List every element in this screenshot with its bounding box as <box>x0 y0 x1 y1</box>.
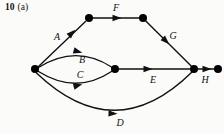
edge-label-c: C <box>77 70 84 80</box>
start-node <box>31 65 39 73</box>
edge-layer <box>37 18 215 110</box>
edge-b <box>39 56 112 68</box>
edge-label-d: D <box>116 118 123 128</box>
end-node <box>214 65 222 73</box>
edge-label-h: H <box>201 75 208 85</box>
top-right-node <box>139 14 147 22</box>
node-layer <box>31 14 222 73</box>
arrowhead-f <box>113 15 122 21</box>
edge-label-b: B <box>79 55 85 65</box>
edge-label-g: G <box>169 31 176 41</box>
arrowhead-h <box>203 66 212 72</box>
edge-label-f: F <box>113 3 119 13</box>
edge-c <box>39 72 112 84</box>
edge-label-a: A <box>54 32 60 42</box>
arrowhead-d <box>108 110 117 117</box>
junction-node <box>190 65 198 73</box>
graph-canvas <box>0 0 224 134</box>
top-left-node <box>85 14 93 22</box>
edge-d <box>37 72 193 110</box>
arrowhead-e <box>144 66 153 72</box>
arrowhead-layer <box>67 15 212 117</box>
edge-label-e: E <box>150 75 156 85</box>
figure-container: 10(a) ABCDEFGH <box>0 0 224 134</box>
arrowhead-a <box>67 28 78 39</box>
middle-node <box>111 65 119 73</box>
